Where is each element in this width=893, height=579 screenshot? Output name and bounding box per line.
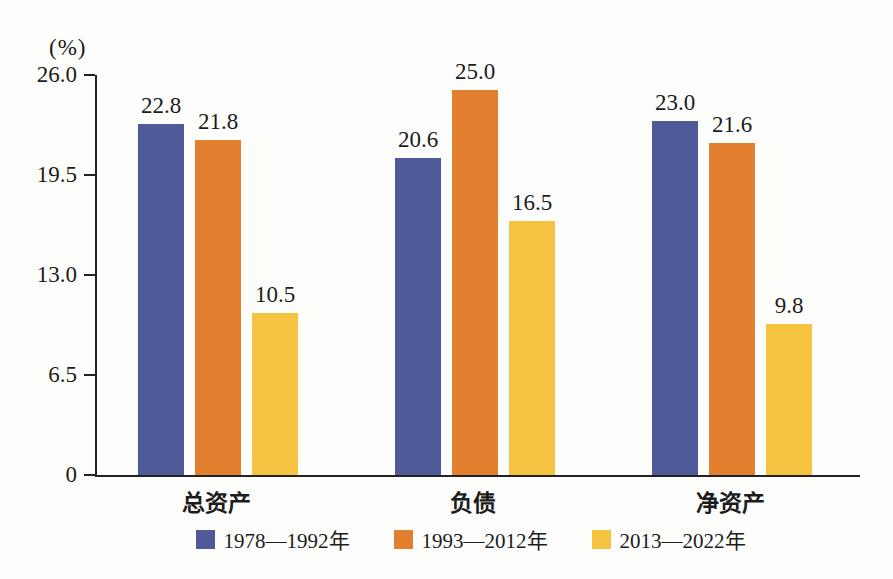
legend-label: 1978—1992年: [224, 524, 350, 554]
category-label: 总资产: [182, 484, 251, 518]
y-tick: [84, 274, 95, 276]
y-tick-label: 6.5: [13, 363, 77, 386]
bar-value-label: 23.0: [655, 91, 695, 114]
legend-item: 1993—2012年: [394, 524, 548, 554]
y-axis-unit-label: (%): [49, 35, 86, 61]
legend-item: 2013—2022年: [592, 524, 746, 554]
bar: [395, 158, 441, 475]
y-tick: [84, 74, 95, 76]
bar: [766, 324, 812, 475]
bar-value-label: 9.8: [775, 294, 804, 317]
bar: [452, 90, 498, 475]
y-tick: [84, 374, 95, 376]
category-label: 负债: [450, 484, 496, 518]
bar: [509, 221, 555, 475]
bar: [138, 124, 184, 475]
bar: [195, 140, 241, 475]
y-tick-label: 0: [13, 463, 77, 486]
y-tick: [84, 174, 95, 176]
bar-chart-figure: (%) 06.513.019.526.0 22.821.810.520.625.…: [0, 0, 893, 579]
bar-value-label: 22.8: [141, 94, 181, 117]
bar: [709, 143, 755, 475]
legend-label: 2013—2022年: [620, 524, 746, 554]
bar-value-label: 21.8: [198, 110, 238, 133]
bar-value-label: 10.5: [255, 283, 295, 306]
category-label: 净资产: [696, 484, 765, 518]
y-tick: [84, 474, 95, 476]
y-tick-label: 19.5: [13, 163, 77, 186]
y-tick-label: 13.0: [13, 263, 77, 286]
legend-label: 1993—2012年: [422, 524, 548, 554]
plot-area: 06.513.019.526.0 22.821.810.520.625.016.…: [95, 75, 860, 477]
legend-swatch: [196, 530, 215, 549]
bar-value-label: 25.0: [455, 60, 495, 83]
bar: [652, 121, 698, 475]
legend-item: 1978—1992年: [196, 524, 350, 554]
bar-value-label: 21.6: [712, 113, 752, 136]
bar-value-label: 16.5: [512, 191, 552, 214]
y-tick-label: 26.0: [13, 63, 77, 86]
legend: 1978—1992年1993—2012年2013—2022年: [48, 524, 893, 554]
bar: [252, 313, 298, 475]
bar-value-label: 20.6: [398, 128, 438, 151]
legend-swatch: [592, 530, 611, 549]
legend-swatch: [394, 530, 413, 549]
